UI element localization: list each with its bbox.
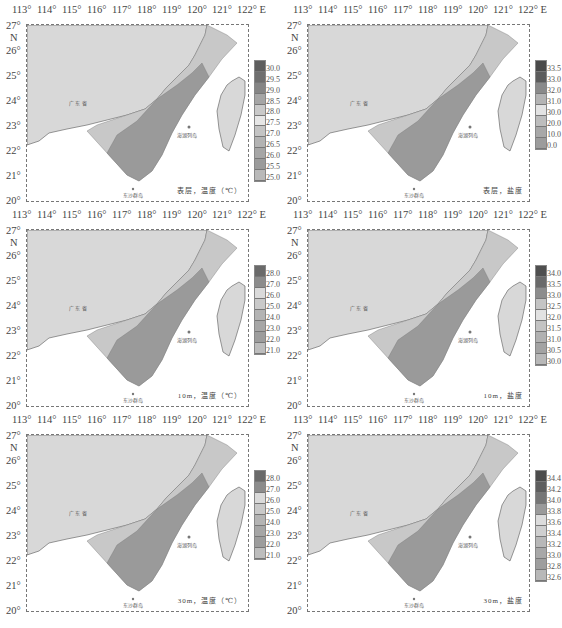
x-tick: 122° E <box>237 4 266 15</box>
colorbar-swatch <box>536 72 546 83</box>
map-canvas <box>308 230 529 406</box>
colorbar-swatch <box>536 138 546 149</box>
panel-caption: 表层，盐度 <box>483 185 523 195</box>
map-panel-surface-salinity: 113°114°115°116°117°118°119°120°121°122°… <box>281 0 562 205</box>
colorbar <box>254 470 266 560</box>
x-tick: 122° E <box>237 414 266 425</box>
y-tick: 25° <box>287 480 302 491</box>
panel-caption: 30m，盐度 <box>484 595 523 605</box>
colorbar-label: 25.0 <box>266 173 280 182</box>
x-tick: 117° <box>393 209 413 220</box>
y-axis-north-label: N <box>291 237 299 248</box>
y-tick: 21° <box>287 580 302 591</box>
colorbar-swatch <box>255 61 265 72</box>
colorbar-label: 20.0 <box>547 119 561 128</box>
y-tick: 24° <box>6 95 21 106</box>
x-tick: 121° <box>493 414 513 425</box>
colorbar-swatch <box>255 504 265 515</box>
x-tick: 120° <box>187 209 207 220</box>
x-axis-ticks: 113°114°115°116°117°118°119°120°121°122°… <box>12 414 262 428</box>
colorbar-swatch <box>536 299 546 310</box>
y-tick: 22° <box>6 555 21 566</box>
colorbar-label: 30.0 <box>266 64 280 73</box>
colorbar-label: 23.0 <box>266 529 280 538</box>
colorbar-swatch <box>536 266 546 277</box>
colorbar-swatch <box>536 116 546 127</box>
x-tick: 122° E <box>518 414 547 425</box>
colorbar-label: 34.4 <box>547 474 561 483</box>
x-tick: 119° <box>443 209 463 220</box>
label-penghu: 澎湖列岛 <box>177 336 197 343</box>
y-tick: 23° <box>287 120 302 131</box>
colorbar-swatch <box>255 94 265 105</box>
x-axis-ticks: 113°114°115°116°117°118°119°120°121°122°… <box>293 209 543 223</box>
colorbar-label: 33.5 <box>547 280 561 289</box>
colorbar-swatch <box>536 277 546 288</box>
colorbar-label: 29.5 <box>266 75 280 84</box>
x-tick: 118° <box>418 209 438 220</box>
colorbar-swatch <box>255 137 265 148</box>
colorbar <box>535 470 547 582</box>
label-guangdong: 广 东 省 <box>350 304 368 311</box>
label-dongsha: 东沙群岛 <box>123 191 143 198</box>
x-tick: 116° <box>368 414 388 425</box>
y-tick: 23° <box>287 530 302 541</box>
x-axis-ticks: 113°114°115°116°117°118°119°120°121°122°… <box>12 4 262 18</box>
penghu-islands <box>469 536 472 539</box>
x-tick: 117° <box>112 4 132 15</box>
x-tick: 118° <box>137 4 157 15</box>
x-tick: 115° <box>62 414 82 425</box>
colorbar-label: 23.0 <box>266 324 280 333</box>
colorbar-swatch <box>255 482 265 493</box>
x-tick: 120° <box>468 4 488 15</box>
x-tick: 114° <box>37 209 57 220</box>
colorbar-label: 29.0 <box>266 86 280 95</box>
taiwan-island <box>217 282 245 356</box>
x-tick: 114° <box>37 4 57 15</box>
y-axis-ticks: 27°N26°25°24°23°22°21°20° <box>4 223 26 408</box>
y-tick: 22° <box>6 145 21 156</box>
x-tick: 114° <box>318 414 338 425</box>
colorbar-label: 34.0 <box>547 269 561 278</box>
y-tick: 22° <box>287 145 302 156</box>
colorbar-label: 31.5 <box>547 324 561 333</box>
colorbar-label: 34.2 <box>547 485 561 494</box>
x-tick: 119° <box>162 209 182 220</box>
x-tick: 115° <box>343 4 363 15</box>
y-axis-north-label: N <box>10 442 18 453</box>
y-tick: 23° <box>6 120 21 131</box>
x-tick: 114° <box>318 4 338 15</box>
colorbar-swatch <box>255 288 265 299</box>
colorbar-label: 28.5 <box>266 97 280 106</box>
x-tick: 119° <box>443 4 463 15</box>
x-tick: 114° <box>37 414 57 425</box>
y-tick: 20° <box>6 605 21 616</box>
y-tick: 27° <box>287 225 302 236</box>
colorbar-swatch <box>536 504 546 515</box>
x-tick: 117° <box>112 414 132 425</box>
y-tick: 26° <box>6 45 21 56</box>
colorbar-label: 24.0 <box>266 518 280 527</box>
x-tick: 120° <box>187 4 207 15</box>
colorbar-label: 10.0 <box>547 130 561 139</box>
label-dongsha: 东沙群岛 <box>123 601 143 608</box>
x-tick: 120° <box>468 414 488 425</box>
colorbar-label: 33.0 <box>547 75 561 84</box>
y-tick: 27° <box>6 20 21 31</box>
x-tick: 120° <box>187 414 207 425</box>
colorbar-swatch <box>255 332 265 343</box>
map-panel-10m-salinity: 113°114°115°116°117°118°119°120°121°122°… <box>281 205 562 410</box>
y-tick: 23° <box>6 530 21 541</box>
colorbar-swatch <box>536 61 546 72</box>
y-tick: 26° <box>287 45 302 56</box>
map-canvas <box>308 435 529 611</box>
label-penghu: 澎湖列岛 <box>458 131 478 138</box>
label-dongsha: 东沙群岛 <box>404 396 424 403</box>
x-tick: 114° <box>318 209 338 220</box>
x-tick: 117° <box>393 414 413 425</box>
x-tick: 113° <box>293 414 313 425</box>
colorbar-swatch <box>536 83 546 94</box>
x-tick: 119° <box>443 414 463 425</box>
map-frame: 广 东 省 澎湖列岛 东沙群岛 表层，温度（℃） <box>26 24 249 202</box>
x-tick: 122° E <box>518 4 547 15</box>
